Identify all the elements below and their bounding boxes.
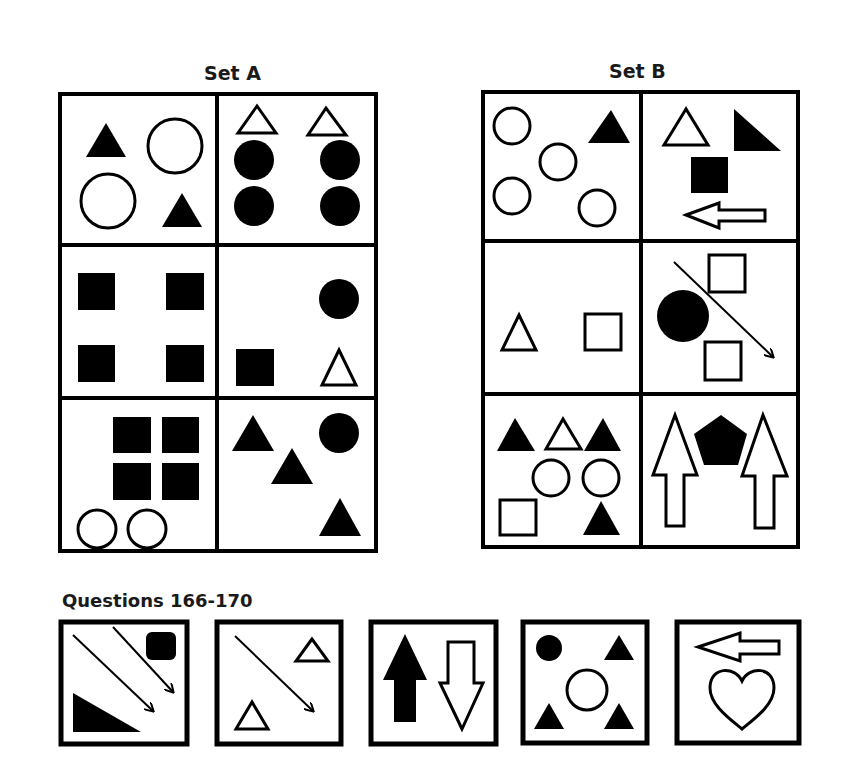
question-169[interactable]	[523, 622, 647, 743]
question-168[interactable]	[371, 622, 496, 744]
filled-square-icon	[78, 273, 115, 310]
filled-square-icon	[113, 417, 151, 453]
outline-circle-icon	[494, 108, 530, 144]
set-a-cell-2-1	[78, 273, 204, 382]
outline-up-arrow-icon	[742, 415, 787, 528]
filled-square-icon	[166, 273, 204, 310]
filled-pentagon-icon	[694, 415, 747, 465]
outline-square-icon	[500, 500, 536, 535]
set-a-cell-3-1	[78, 417, 199, 548]
set-a-cell-1-1	[81, 119, 202, 228]
filled-rounded-square-icon	[146, 632, 176, 660]
outline-triangle-icon	[502, 315, 536, 350]
filled-square-icon	[78, 345, 115, 382]
filled-triangle-icon	[162, 193, 202, 227]
filled-triangle-icon	[319, 498, 361, 536]
puzzle-figure	[0, 0, 852, 778]
filled-circle-icon	[319, 279, 359, 319]
question-167[interactable]	[217, 622, 341, 744]
filled-circle-icon	[536, 635, 562, 661]
outline-square-icon	[709, 255, 745, 292]
outline-triangle-icon	[308, 108, 346, 135]
set-b-cell-2-2	[657, 255, 773, 380]
outline-triangle-icon	[238, 106, 276, 133]
filled-square-icon	[236, 349, 274, 386]
filled-triangle-icon	[232, 415, 274, 451]
outline-circle-icon	[579, 190, 615, 226]
question-170[interactable]	[677, 622, 799, 743]
filled-triangle-icon	[86, 123, 126, 157]
set-a-cell-1-2	[234, 106, 360, 226]
outline-triangle-icon	[546, 419, 581, 449]
set-b-grid	[483, 92, 798, 547]
filled-triangle-icon	[584, 418, 621, 451]
filled-square-icon	[162, 417, 199, 453]
outline-circle-icon	[540, 144, 576, 180]
outline-circle-icon	[78, 510, 116, 548]
set-b-cell-3-2	[653, 415, 787, 528]
set-b-cell-1-1	[494, 108, 630, 226]
outline-up-arrow-icon	[653, 415, 697, 526]
set-b-cell-2-1	[502, 314, 621, 350]
filled-triangle-icon	[588, 110, 630, 143]
outline-left-arrow-icon	[686, 203, 765, 228]
outline-circle-icon	[148, 119, 202, 173]
filled-triangle-icon	[271, 448, 313, 484]
filled-square-icon	[166, 345, 204, 382]
outline-circle-icon	[494, 178, 530, 214]
filled-circle-icon	[657, 290, 709, 342]
filled-square-icon	[113, 463, 151, 500]
filled-triangle-icon	[583, 501, 620, 535]
question-166[interactable]	[61, 622, 187, 744]
filled-square-icon	[691, 157, 728, 193]
outline-triangle-icon	[664, 109, 708, 145]
outline-triangle-icon	[322, 350, 356, 385]
outline-circle-icon	[583, 460, 619, 496]
set-b-cell-1-2	[664, 109, 781, 228]
set-b-cell-3-1	[497, 418, 621, 535]
set-a-cell-3-2	[232, 413, 361, 536]
outline-circle-icon	[533, 460, 569, 496]
filled-circle-icon	[319, 413, 359, 453]
filled-square-icon	[162, 463, 199, 500]
filled-circle-icon	[234, 140, 274, 180]
outline-square-icon	[585, 314, 621, 350]
filled-circle-icon	[320, 186, 360, 226]
filled-right-triangle-icon	[734, 109, 781, 151]
filled-triangle-icon	[497, 418, 535, 451]
filled-circle-icon	[234, 186, 274, 226]
outline-circle-icon	[81, 174, 135, 228]
filled-circle-icon	[320, 140, 360, 180]
set-a-cell-2-2	[236, 279, 359, 386]
outline-circle-icon	[128, 510, 166, 548]
outline-square-icon	[705, 342, 741, 380]
